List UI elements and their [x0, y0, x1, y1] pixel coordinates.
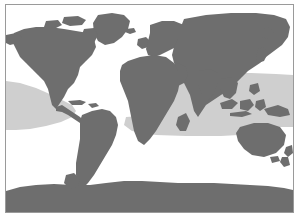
world-map-frame: [5, 4, 294, 213]
figure-caption: [5, 215, 294, 222]
land-antarctica: [6, 181, 293, 212]
world-map-canvas: [6, 5, 293, 212]
figure-root: [0, 0, 305, 223]
